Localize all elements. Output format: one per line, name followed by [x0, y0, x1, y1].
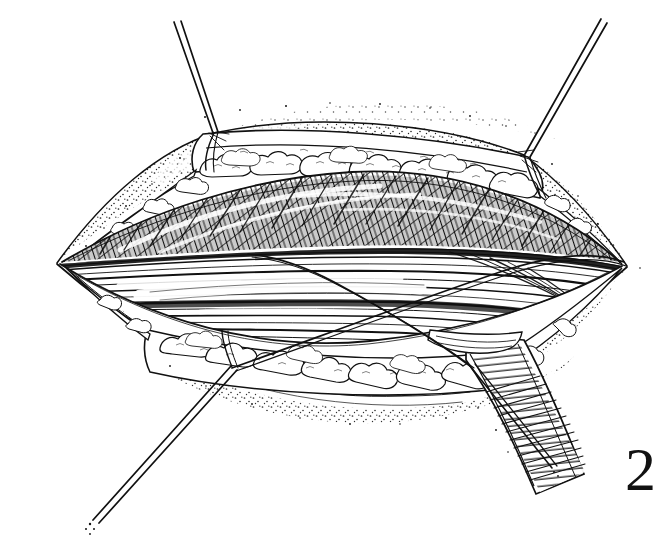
surgical-illustration [0, 0, 668, 550]
illustration-canvas: 2 [0, 0, 668, 550]
figure-number: 2 [625, 438, 656, 500]
